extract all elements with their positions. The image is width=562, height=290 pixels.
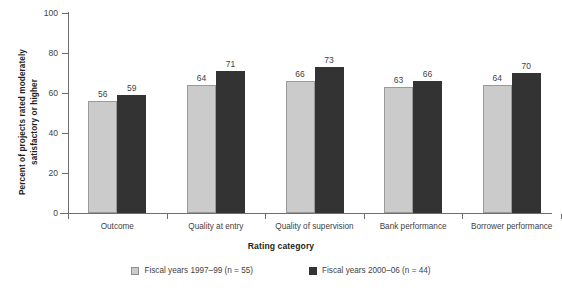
bar [315, 67, 344, 213]
category-separator-tick [364, 214, 365, 219]
category-separator-tick [167, 214, 168, 219]
category-separator-tick [265, 214, 266, 219]
y-axis-tick-label-text: 80 [34, 49, 58, 58]
legend-item: Fiscal years 2000–06 (n = 44) [309, 266, 431, 275]
y-axis-title-line-1: Percent of projects rated moderately [17, 17, 29, 227]
x-axis-title: Rating category [0, 241, 562, 251]
category-separator-tick [68, 214, 69, 219]
x-axis-category-label: Outcome [68, 222, 167, 232]
bar [216, 71, 245, 213]
x-axis-category-label: Bank performance [364, 222, 463, 232]
legend-swatch-dark [309, 267, 317, 275]
bar [512, 73, 541, 213]
x-axis-line [60, 213, 552, 214]
legend-swatch-light [131, 267, 139, 275]
y-axis-tick-label: 60 [34, 89, 58, 98]
y-axis-tick-label: 0 [34, 209, 58, 218]
bar-value-label: 56 [88, 90, 117, 99]
chart-legend: Fiscal years 1997–99 (n = 55)Fiscal year… [0, 266, 562, 275]
bar [384, 87, 413, 213]
bar-chart-figure: Percent of projects rated moderately sat… [0, 0, 562, 290]
bar-value-label: 66 [286, 70, 315, 79]
bar [117, 95, 146, 213]
y-axis-tick-label-text: 0 [34, 209, 58, 218]
x-axis-category-label: Quality of supervision [265, 222, 364, 232]
category-separator-tick [462, 214, 463, 219]
legend-item: Fiscal years 1997–99 (n = 55) [131, 266, 253, 275]
y-axis-tick-label: 20 [34, 169, 58, 178]
y-axis-tick-label-text: 60 [34, 89, 58, 98]
bar-value-label: 59 [117, 84, 146, 93]
y-axis-tick-label: 100 [34, 9, 58, 18]
y-axis-tick-label-text: 100 [34, 9, 58, 18]
plot-area: 56596471667363666470 [68, 13, 552, 213]
bar-value-label: 73 [315, 56, 344, 65]
x-axis-category-label: Quality at entry [167, 222, 266, 232]
bar-value-label: 64 [483, 74, 512, 83]
bar [88, 101, 117, 213]
bar [413, 81, 442, 213]
bar-value-label: 66 [413, 70, 442, 79]
bar-value-label: 71 [216, 60, 245, 69]
y-axis-tick-label-text: 20 [34, 169, 58, 178]
legend-item-label: Fiscal years 1997–99 (n = 55) [144, 266, 253, 275]
bar-value-label: 63 [384, 76, 413, 85]
y-axis-tick-label: 40 [34, 129, 58, 138]
bar [483, 85, 512, 213]
bar [187, 85, 216, 213]
legend-item-label: Fiscal years 2000–06 (n = 44) [322, 266, 431, 275]
y-axis-tick-label-text: 40 [34, 129, 58, 138]
bar-value-label: 70 [512, 62, 541, 71]
y-axis-tick-label: 80 [34, 49, 58, 58]
bar [286, 81, 315, 213]
bar-value-label: 64 [187, 74, 216, 83]
x-axis-category-label: Borrower performance [462, 222, 561, 232]
